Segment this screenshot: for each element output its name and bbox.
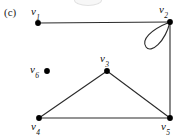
vertex-label-v6: v6 [30,64,39,75]
edge-v2-self-loop [145,22,170,49]
edge-layer [38,22,170,118]
graph-canvas [0,0,182,137]
vertex-layer [35,19,173,121]
edge-v1-v2 [38,22,170,23]
vertex-label-v4: v4 [31,121,40,132]
edge-v3-v5 [107,71,170,118]
vertex-label-v1: v1 [31,6,40,17]
edge-v4-v3 [39,71,107,118]
graph-figure: (c) v1 v2 v3 v4 v5 v6 [0,0,182,137]
vertex-label-v3: v3 [100,53,109,64]
vertex-v6 [44,68,50,74]
figure-caption: (c) [4,7,16,18]
vertex-label-v5: v5 [161,121,170,132]
vertex-label-v2: v2 [159,4,168,15]
